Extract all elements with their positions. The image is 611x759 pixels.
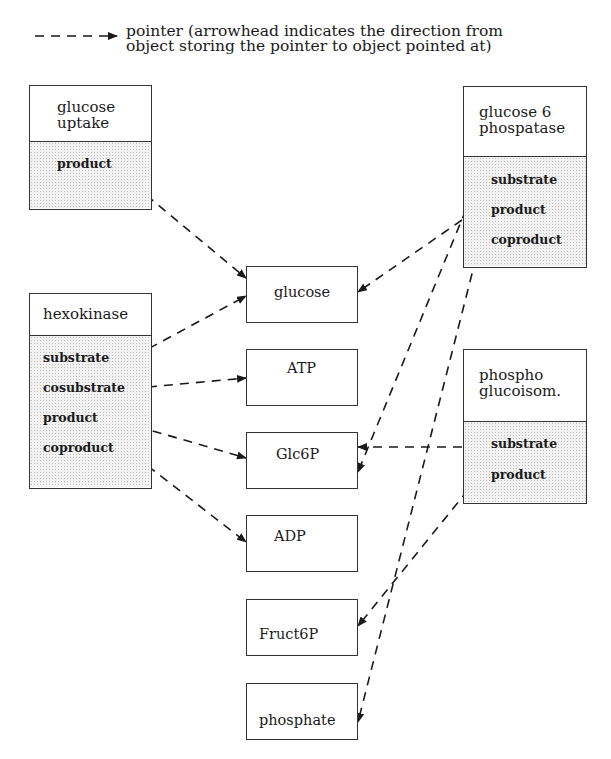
attr-substrate: substrate <box>491 172 557 187</box>
attr-product: product <box>491 467 546 482</box>
entity-glucose: glucose <box>246 266 358 323</box>
attr-coproduct: coproduct <box>43 440 114 455</box>
attr-coproduct: coproduct <box>491 232 562 247</box>
entity-phosphate: phosphate <box>246 683 358 740</box>
attr-substrate: substrate <box>491 436 557 451</box>
entity-glc6p: Glc6P <box>246 432 358 489</box>
entity-fruct6p: Fruct6P <box>246 599 358 656</box>
attr-product: product <box>491 202 546 217</box>
object-hexokinase: hexokinase substrate cosubstrate product… <box>29 293 152 489</box>
object-title: glucose 6 phospatase <box>464 87 586 157</box>
arrow-g6pase-substrate-glc6p <box>358 195 472 472</box>
entity-atp: ATP <box>246 349 358 406</box>
object-glucose-uptake: glucose uptake product <box>29 85 152 210</box>
object-glucose6-phosphatase: glucose 6 phospatase substrate product c… <box>463 86 587 268</box>
arrow-hk-cosubstrate-atp <box>148 378 246 387</box>
legend-line-2: object storing the pointer to object poi… <box>126 39 503 54</box>
arrow-pgi-product-fruct6p <box>358 490 468 626</box>
attr-product: product <box>57 156 112 171</box>
object-title: phospho glucoisom. <box>464 350 586 422</box>
object-title: hexokinase <box>30 294 151 336</box>
legend-text: pointer (arrowhead indicates the directi… <box>126 24 503 54</box>
object-title: glucose uptake <box>30 86 151 142</box>
attr-substrate: substrate <box>43 350 109 365</box>
attr-product: product <box>43 410 98 425</box>
arrow-g6pase-coproduct-phosphate <box>358 258 476 722</box>
entity-adp: ADP <box>246 515 358 572</box>
attr-cosubstrate: cosubstrate <box>43 380 125 395</box>
object-phospho-glucoisomerase: phospho glucoisom. substrate product <box>463 349 587 504</box>
